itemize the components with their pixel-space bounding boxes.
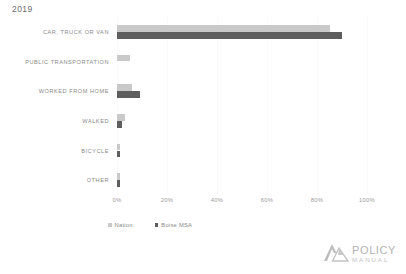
bar-nation xyxy=(117,144,120,151)
legend-label: Boise MSA xyxy=(161,222,192,228)
x-tick-label: 80% xyxy=(311,197,324,203)
bar-boise-msa xyxy=(117,121,122,128)
policy-manual-logo: POLICY MANUAL xyxy=(323,242,396,266)
legend-item-boise-msa[interactable]: Boise MSA xyxy=(155,222,192,228)
logo-text-policy: POLICY xyxy=(352,245,396,256)
category-label: BICYCLE xyxy=(81,148,109,154)
x-tick-label: 40% xyxy=(211,197,224,203)
legend-swatch-icon xyxy=(155,223,159,227)
bar-boise-msa xyxy=(117,91,140,98)
category-label: OTHER xyxy=(87,177,109,183)
bar-nation xyxy=(117,173,120,180)
logo-text-manual: MANUAL xyxy=(352,257,396,263)
bar-series-container xyxy=(117,17,367,195)
category-label: WALKED xyxy=(82,118,109,124)
legend-label: Nation xyxy=(115,222,133,228)
plot-area xyxy=(117,17,367,195)
bar-nation xyxy=(117,55,130,62)
bar-boise-msa xyxy=(117,151,120,158)
gridline xyxy=(367,17,368,195)
legend-swatch-icon xyxy=(108,223,112,227)
logo-wordmark: POLICY MANUAL xyxy=(352,245,396,264)
bar-nation xyxy=(117,25,330,32)
chart-legend: NationBoise MSA xyxy=(108,219,192,231)
category-axis-labels: CAR, TRUCK OR VANPUBLIC TRANSPORTATIONWO… xyxy=(0,17,113,195)
category-label: CAR, TRUCK OR VAN xyxy=(43,29,109,35)
chart-title: 2019 xyxy=(12,4,33,14)
bar-nation xyxy=(117,84,132,91)
category-label: WORKED FROM HOME xyxy=(39,88,109,94)
x-tick-label: 100% xyxy=(359,197,375,203)
x-tick-label: 60% xyxy=(261,197,274,203)
bar-boise-msa xyxy=(117,32,342,39)
bar-nation xyxy=(117,114,125,121)
bar-boise-msa xyxy=(117,180,120,187)
commute-mode-bar-chart: 2019 CAR, TRUCK OR VANPUBLIC TRANSPORTAT… xyxy=(0,0,406,274)
legend-item-nation[interactable]: Nation xyxy=(108,222,133,228)
x-tick-label: 20% xyxy=(161,197,174,203)
x-axis-tick-labels: 0%20%40%60%80%100% xyxy=(117,197,367,209)
category-label: PUBLIC TRANSPORTATION xyxy=(25,59,109,65)
x-tick-label: 0% xyxy=(113,197,122,203)
mountain-logo-icon xyxy=(323,242,349,266)
